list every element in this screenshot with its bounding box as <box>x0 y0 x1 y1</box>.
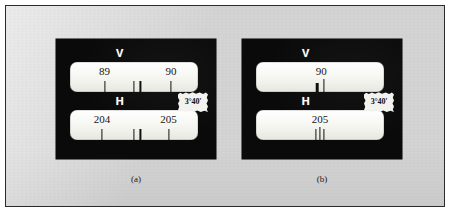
graduation-tick <box>168 129 169 140</box>
axis-label-vertical: V <box>56 48 184 59</box>
graduation-tick <box>316 129 317 140</box>
angle-tag-a: 3°40' <box>178 92 208 112</box>
horizontal-circle-window-b: 205 <box>256 110 384 140</box>
window-numeral: 205 <box>160 113 177 125</box>
axis-label-vertical: V <box>242 48 370 59</box>
window-numeral: 205 <box>312 113 329 125</box>
graduation-tick <box>323 129 324 140</box>
graduation-tick <box>104 81 105 92</box>
window-numeral: 204 <box>94 113 111 125</box>
graduation-tick <box>133 129 134 140</box>
window-numeral: 90 <box>316 65 327 77</box>
vertical-circle-window-a: 89 90 <box>70 62 198 92</box>
horizontal-circle-window-a: 204 205 <box>70 110 198 140</box>
graduation-tick <box>316 83 319 92</box>
graduation-tick <box>101 129 102 140</box>
axis-label-horizontal: H <box>242 96 370 107</box>
graduation-tick <box>171 81 172 92</box>
vertical-circle-window-b: 90 <box>256 62 384 92</box>
graduation-tick <box>133 81 134 92</box>
axis-label-horizontal: H <box>56 96 184 107</box>
graduation-tick <box>140 81 141 92</box>
graduation-tick <box>319 127 320 140</box>
angle-tag-b: 3°40' <box>364 92 394 112</box>
figure-frame: V 89 90 H 204 205 3°40' (a) V 90 H <box>5 5 445 207</box>
panel-caption-a: (a) <box>56 174 216 184</box>
window-numeral: 90 <box>166 65 177 77</box>
graduation-tick <box>323 79 324 92</box>
window-numeral: 89 <box>99 65 110 77</box>
graduation-tick <box>140 129 141 140</box>
panel-caption-b: (b) <box>242 174 402 184</box>
